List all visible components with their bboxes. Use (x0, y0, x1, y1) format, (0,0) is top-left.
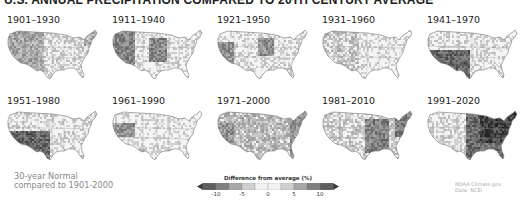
legend-tick: 10 (317, 191, 324, 197)
credit: NOAA Climate.gov Data: NCEI (455, 181, 501, 193)
us-precipitation-map (319, 26, 417, 84)
us-precipitation-map (109, 107, 207, 165)
us-precipitation-map (319, 107, 417, 165)
map-title: U.S. ANNUAL PRECIPITATION COMPARED TO 20… (4, 0, 433, 7)
map-panel: 1911–1940 (105, 14, 209, 92)
map-panel: 1921–1950 (210, 14, 314, 92)
map-panel: 1971–2000 (210, 95, 314, 173)
map-panel: 1961–1990 (105, 95, 209, 173)
panel-label: 1981–2010 (322, 95, 375, 106)
panel-label: 1991–2020 (427, 95, 480, 106)
credit-line-2: Data: NCEI (455, 187, 501, 193)
legend-tick: 0 (266, 191, 270, 197)
map-panel: 1951–1980 (0, 95, 104, 173)
color-legend: Difference from average (%) -10 -5 0 5 1… (195, 175, 345, 205)
us-precipitation-map (424, 26, 522, 84)
legend-ticks: -10 -5 0 5 10 (195, 191, 345, 199)
us-precipitation-map (214, 107, 312, 165)
panel-label: 1961–1990 (112, 95, 165, 106)
legend-tick: -5 (239, 191, 244, 197)
map-panel: 1991–2020 (420, 95, 524, 173)
panel-label: 1971–2000 (217, 95, 270, 106)
legend-color-bar (197, 183, 339, 190)
us-precipitation-map (4, 107, 102, 165)
legend-title: Difference from average (%) (195, 175, 341, 181)
map-panel: 1931–1960 (315, 14, 419, 92)
us-precipitation-map (214, 26, 312, 84)
us-precipitation-map (109, 26, 207, 84)
map-panel: 1981–2010 (315, 95, 419, 173)
panel-label: 1921–1950 (217, 14, 270, 25)
footnote-line-2: compared to 1901-2000 (14, 181, 113, 190)
legend-tick: 5 (292, 191, 296, 197)
panel-label: 1901–1930 (7, 14, 60, 25)
panel-label: 1931–1960 (322, 14, 375, 25)
map-panel: 1941–1970 (420, 14, 524, 92)
legend-tick: -10 (212, 191, 221, 197)
panel-label: 1951–1980 (7, 95, 60, 106)
footnote: 30-year Normal compared to 1901-2000 (14, 172, 113, 190)
panel-label: 1941–1970 (427, 14, 480, 25)
us-precipitation-map (424, 107, 522, 165)
us-precipitation-map (4, 26, 102, 84)
map-panel: 1901–1930 (0, 14, 104, 92)
panel-label: 1911–1940 (112, 14, 165, 25)
